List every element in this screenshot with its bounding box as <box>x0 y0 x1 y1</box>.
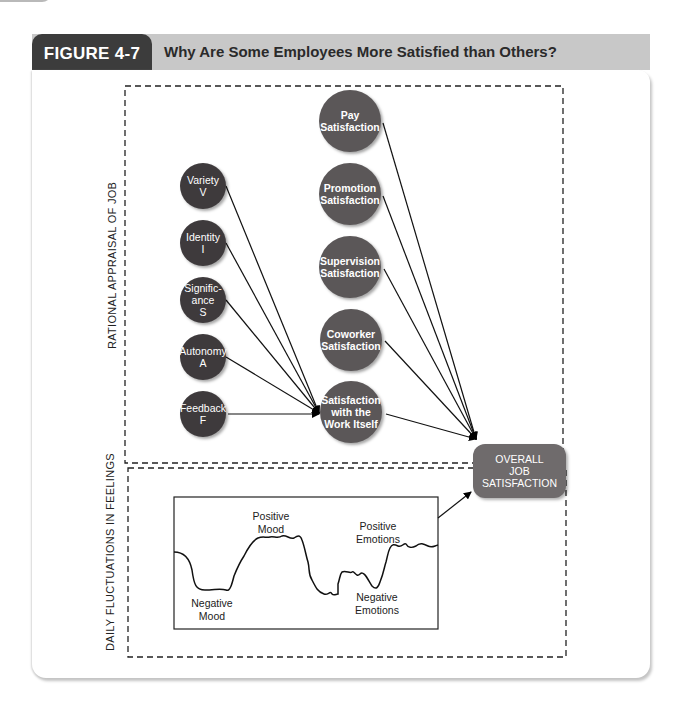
rational-section-label: RATIONAL APPRAISAL OF JOB <box>106 199 118 349</box>
feelings-arrow <box>438 492 471 518</box>
label-positive-mood: PositiveMood <box>246 510 296 536</box>
node-significance: Signific-anceS <box>180 277 226 323</box>
node-coworker-satisfaction: CoworkerSatisfaction <box>320 309 382 371</box>
node-promotion-satisfaction: PromotionSatisfaction <box>319 163 381 225</box>
node-overall-job-satisfaction: OVERALLJOBSATISFACTION <box>473 444 566 498</box>
node-autonomy: AutonomyA <box>180 334 226 380</box>
characteristic-arrows <box>226 186 319 414</box>
node-supervision-satisfaction: SupervisionSatisfaction <box>319 236 381 298</box>
label-negative-mood: NegativeMood <box>186 597 238 623</box>
daily-section-label: DAILY FLUCTUATIONS IN FEELINGS <box>104 471 116 651</box>
node-variety: VarietyV <box>180 163 226 209</box>
node-pay-satisfaction: PaySatisfaction <box>319 90 381 152</box>
facet-arrows <box>383 123 476 439</box>
node-feedback: FeedbackF <box>180 391 226 437</box>
label-negative-emotions: NegativeEmotions <box>349 591 405 617</box>
node-work-itself-satisfaction: Satisfactionwith theWork Itself <box>320 381 382 443</box>
label-positive-emotions: PositiveEmotions <box>350 520 406 546</box>
node-identity: IdentityI <box>180 220 226 266</box>
